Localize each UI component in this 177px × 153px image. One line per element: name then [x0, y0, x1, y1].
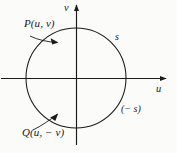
point-label-q: Q(u, − v)	[22, 127, 64, 138]
u-axis-label: u	[156, 84, 161, 95]
arc-label-s: s	[115, 32, 119, 42]
math-figure: P(u, v) Q(u, − v) s (− s) u v	[0, 0, 177, 153]
arrowhead-q	[50, 114, 58, 121]
point-label-p: P(u, v)	[24, 18, 55, 29]
arc-label-negative-s: (− s)	[121, 104, 141, 114]
arrowhead-p	[51, 38, 59, 44]
v-axis-label: v	[64, 3, 69, 14]
